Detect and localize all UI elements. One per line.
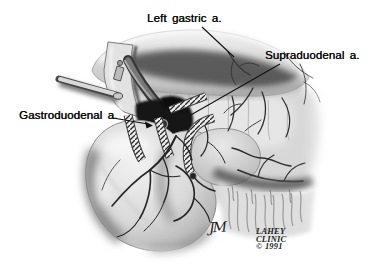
anatomy-artwork: [0, 0, 371, 266]
publisher-credit-line3: © 1991: [256, 243, 287, 251]
medical-illustration-canvas: Left gastric a. Supraduodenal a. Gastrod…: [0, 0, 371, 266]
publisher-credit: LAHEY CLINIC © 1991: [256, 228, 287, 251]
label-left-gastric-artery: Left gastric a.: [147, 12, 222, 24]
artist-monogram: JM: [209, 219, 226, 236]
label-gastroduodenal-artery: Gastroduodenal a.: [19, 109, 117, 121]
bottom-fade: [0, 244, 371, 266]
right-fade: [302, 0, 371, 266]
label-supraduodenal-artery: Supraduodenal a.: [265, 49, 359, 61]
